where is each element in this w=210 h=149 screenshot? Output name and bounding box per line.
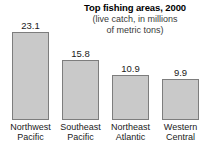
bar-group-northeast-atlantic: 10.9 Northeast Atlantic [112, 75, 149, 120]
bar-label-line-1-western-central: Western [153, 122, 208, 132]
bar-label-western-central: Western Central [153, 122, 208, 142]
bar-group-southeast-pacific: 15.8 Southeast Pacific [62, 60, 99, 120]
plot-area: 23.1 Northwest Pacific 15.8 Southeast Pa… [0, 0, 210, 149]
bar-northwest-pacific [12, 32, 49, 120]
bar-label-line-2-northeast-atlantic: Atlantic [103, 132, 158, 142]
bar-label-line-1-northeast-atlantic: Northeast [103, 122, 158, 132]
bar-label-line-2-northwest-pacific: Pacific [3, 132, 58, 142]
bar-label-line-1-northwest-pacific: Northwest [3, 122, 58, 132]
bar-value-northwest-pacific: 23.1 [12, 20, 49, 31]
bar-southeast-pacific [62, 60, 99, 120]
bar-chart: Top fishing areas, 2000 (live catch, in … [0, 0, 210, 149]
bar-value-southeast-pacific: 15.8 [62, 48, 99, 59]
bar-value-northeast-atlantic: 10.9 [112, 63, 149, 74]
bar-group-western-central: 9.9 Western Central [162, 79, 199, 120]
bar-label-line-2-western-central: Central [153, 132, 208, 142]
bar-label-line-1-southeast-pacific: Southeast [53, 122, 108, 132]
bar-label-northwest-pacific: Northwest Pacific [3, 122, 58, 142]
bar-label-northeast-atlantic: Northeast Atlantic [103, 122, 158, 142]
bar-group-northwest-pacific: 23.1 Northwest Pacific [12, 32, 49, 120]
bar-western-central [162, 79, 199, 120]
bar-value-western-central: 9.9 [162, 67, 199, 78]
bar-northeast-atlantic [112, 75, 149, 120]
bar-label-line-2-southeast-pacific: Pacific [53, 132, 108, 142]
bar-label-southeast-pacific: Southeast Pacific [53, 122, 108, 142]
